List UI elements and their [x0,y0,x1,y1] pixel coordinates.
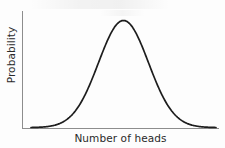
chart-canvas [0,0,225,148]
probability-distribution-figure: Probability Number of heads [0,0,225,148]
bell-curve-path [31,21,216,128]
y-axis-label: Probability [5,19,17,91]
x-axis-label: Number of heads [22,132,219,144]
